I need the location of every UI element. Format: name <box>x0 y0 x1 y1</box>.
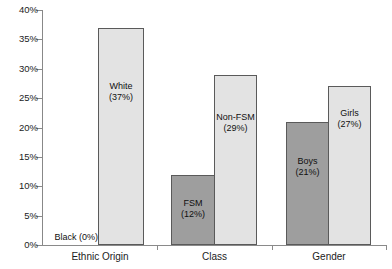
y-tick-label-25: 25% <box>0 93 38 103</box>
category-label-class: Class <box>157 251 272 263</box>
x-tick-separator-2 <box>272 245 273 250</box>
bar-boys[interactable]: Boys (21%) <box>286 122 329 245</box>
y-tick-label-10: 10% <box>0 181 38 191</box>
bar-girls[interactable]: Girls (27%) <box>328 86 371 245</box>
bar-label-boys: Boys (21%) <box>287 156 328 178</box>
category-label-gender: Gender <box>272 251 386 263</box>
bar-label-non-fsm-line1: Non-FSM <box>215 112 256 123</box>
bar-label-girls-line2: (27%) <box>329 119 370 130</box>
bar-chart: 0% 5% 10% 15% 20% 25% 30% 35% 40% Ethnic… <box>0 0 392 269</box>
x-tick-separator-1 <box>157 245 158 250</box>
bar-label-black: Black (0%) <box>46 232 98 243</box>
bar-label-boys-line1: Boys <box>287 156 328 167</box>
y-tick-label-5: 5% <box>0 211 38 221</box>
x-axis-line <box>42 245 387 246</box>
bar-label-girls: Girls (27%) <box>329 108 370 130</box>
category-label-ethnic-origin: Ethnic Origin <box>43 251 157 263</box>
bar-label-girls-line1: Girls <box>329 108 370 119</box>
y-tick-label-20: 20% <box>0 123 38 133</box>
y-tick-label-15: 15% <box>0 152 38 162</box>
y-tick-label-35: 35% <box>0 34 38 44</box>
y-tick-label-0: 0% <box>0 240 38 250</box>
y-tick-label-30: 30% <box>0 64 38 74</box>
bar-label-fsm-line2: (12%) <box>172 209 214 220</box>
y-axis-line <box>42 10 43 246</box>
bar-label-boys-line2: (21%) <box>287 167 328 178</box>
bar-label-white-line1: White <box>99 81 143 92</box>
bar-label-non-fsm-line2: (29%) <box>215 123 256 134</box>
bar-non-fsm[interactable]: Non-FSM (29%) <box>214 75 257 245</box>
bar-label-white: White (37%) <box>99 81 143 103</box>
x-tick-separator-3 <box>386 245 387 250</box>
bar-label-white-line2: (37%) <box>99 92 143 103</box>
bar-white[interactable]: White (37%) <box>98 28 144 245</box>
bar-fsm[interactable]: FSM (12%) <box>171 175 215 246</box>
bar-label-non-fsm: Non-FSM (29%) <box>215 112 256 134</box>
y-tick-label-40: 40% <box>0 5 38 15</box>
bar-label-fsm-line1: FSM <box>172 198 214 209</box>
bar-label-fsm: FSM (12%) <box>172 198 214 220</box>
